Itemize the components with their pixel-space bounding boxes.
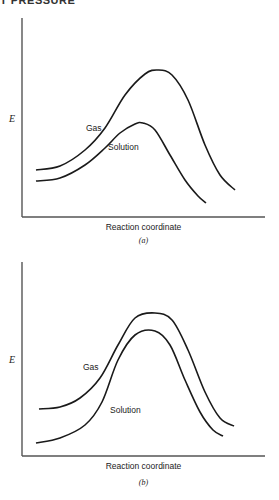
solution-curve bbox=[36, 122, 206, 203]
gas-label: Gas bbox=[83, 362, 99, 372]
energy-diagrams: EReaction coordinate(a)GasSolutionEReact… bbox=[0, 0, 279, 500]
gas-curve bbox=[36, 70, 235, 190]
y-axis-label: E bbox=[8, 354, 15, 365]
x-axis-label: Reaction coordinate bbox=[106, 461, 182, 471]
chart-panel-b: EReaction coordinate(b)GasSolution bbox=[8, 262, 265, 487]
x-axis-label: Reaction coordinate bbox=[106, 222, 182, 232]
y-axis-label: E bbox=[8, 113, 15, 124]
solution-label: Solution bbox=[110, 405, 141, 415]
panel-label: (b) bbox=[139, 478, 149, 487]
solution-curve bbox=[36, 330, 223, 443]
panel-label: (a) bbox=[139, 236, 149, 245]
chart-panel-a: EReaction coordinate(a)GasSolution bbox=[8, 18, 265, 245]
gas-label: Gas bbox=[86, 123, 102, 133]
solution-label: Solution bbox=[108, 142, 139, 152]
